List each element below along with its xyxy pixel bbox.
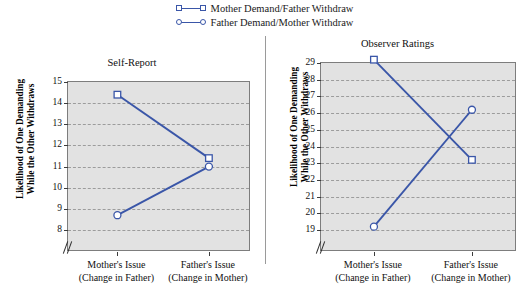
x-axis-tick [117, 252, 118, 256]
x-axis-tick-label-line2: (Change in Father) [79, 272, 155, 284]
y-axis-title-left: Likelihood of One Demanding While the Ot… [15, 70, 37, 208]
x-axis-tick-label-line1: Mother's Issue [79, 259, 155, 272]
chart-legend: Mother Demand/Father Withdraw Father Dem… [0, 2, 529, 29]
plot-area-self-report [67, 81, 250, 251]
series-layer [68, 82, 251, 252]
y-axis-tick-label: 27 [299, 90, 315, 100]
y-axis-title-left-line2: While the Other Withdraws [26, 70, 37, 208]
x-axis-tick [374, 252, 375, 256]
data-point-square [371, 56, 378, 63]
legend-entry-father-demand: Father Demand/Mother Withdraw [176, 16, 354, 29]
y-axis-tick-label: 20 [299, 207, 315, 217]
legend-entry-mother-demand: Mother Demand/Father Withdraw [176, 2, 354, 15]
y-axis-tick-label: 25 [299, 124, 315, 134]
y-axis-tick-label: 10 [46, 182, 62, 192]
plot-area-observer-ratings [320, 62, 516, 251]
data-point-circle [205, 163, 212, 170]
y-axis-tick-label: 12 [46, 139, 62, 149]
x-axis-tick-label: Father's Issue(Change in Mother) [168, 259, 247, 284]
x-axis-tick-label-line1: Father's Issue [168, 259, 247, 272]
x-axis-tick [472, 252, 473, 256]
x-axis-tick-label: Mother's Issue(Change in Father) [79, 259, 155, 284]
panels-container: Self-Report Likelihood of One Demanding … [0, 33, 529, 283]
x-axis-tick-label-line1: Father's Issue [431, 259, 510, 272]
data-point-square [206, 155, 213, 162]
panel-title-observer-ratings: Observer Ratings [266, 38, 529, 49]
data-point-square [114, 91, 121, 98]
y-axis-title-left-line1: Likelihood of One Demanding [15, 70, 26, 208]
open-circle-marker-icon [176, 17, 206, 28]
y-axis-tick-label: 26 [299, 107, 315, 117]
y-axis-tick-label: 11 [46, 161, 62, 171]
y-axis-tick-label: 23 [299, 157, 315, 167]
legend-label-father-demand: Father Demand/Mother Withdraw [211, 17, 354, 28]
data-point-square [469, 157, 476, 164]
panel-observer-ratings: Observer Ratings Likelihood of One Deman… [266, 33, 529, 283]
series-line [117, 95, 209, 158]
series-layer [321, 63, 517, 252]
y-axis-tick-label: 29 [299, 57, 315, 67]
y-axis-tick-label: 13 [46, 118, 62, 128]
y-axis-tick-label: 9 [46, 203, 62, 213]
x-axis-tick-label-line2: (Change in Mother) [431, 272, 510, 284]
data-point-circle [370, 223, 377, 230]
y-axis-tick-label: 14 [46, 97, 62, 107]
data-point-circle [114, 212, 121, 219]
x-axis-tick-label: Father's Issue(Change in Mother) [431, 259, 510, 284]
series-line [117, 167, 209, 216]
series-line [374, 110, 472, 227]
y-axis-tick-label: 28 [299, 74, 315, 84]
data-point-circle [468, 106, 475, 113]
y-axis-break-left [62, 241, 73, 254]
y-axis-tick-label: 19 [299, 224, 315, 234]
y-axis-tick-label: 15 [46, 76, 62, 86]
x-axis-tick [209, 252, 210, 256]
x-axis-tick-label-line2: (Change in Mother) [168, 272, 247, 284]
y-axis-tick-label: 24 [299, 141, 315, 151]
y-axis-tick-label: 21 [299, 191, 315, 201]
panel-self-report: Self-Report Likelihood of One Demanding … [0, 33, 264, 283]
y-axis-tick-label: 22 [299, 174, 315, 184]
open-square-marker-icon [176, 3, 206, 14]
panel-title-self-report: Self-Report [0, 57, 264, 68]
x-axis-tick-label-line1: Mother's Issue [335, 259, 411, 272]
legend-label-mother-demand: Mother Demand/Father Withdraw [211, 3, 354, 14]
y-axis-tick-label: 8 [46, 224, 62, 234]
x-axis-tick-label: Mother's Issue(Change in Father) [335, 259, 411, 284]
x-axis-tick-label-line2: (Change in Father) [335, 272, 411, 284]
y-axis-break-right [315, 241, 326, 254]
series-line [374, 60, 472, 160]
